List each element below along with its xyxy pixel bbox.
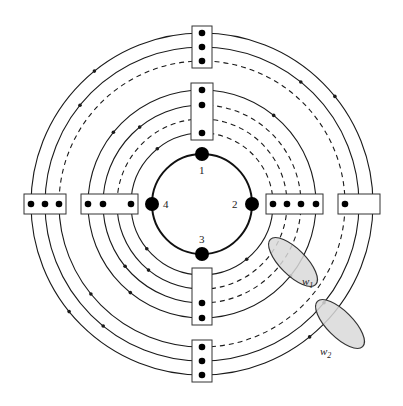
arrow-marker — [147, 268, 151, 272]
arrow-marker — [138, 125, 142, 129]
port-dot — [284, 201, 291, 208]
port-dot — [199, 315, 206, 322]
port-dot — [199, 87, 206, 94]
arrow-marker — [123, 265, 127, 269]
arrow-marker — [245, 257, 249, 261]
arrow-marker — [93, 69, 97, 73]
ellipse-label-w2: w2 — [320, 345, 331, 360]
arrow-marker — [101, 324, 105, 328]
port-dot — [42, 201, 49, 208]
ring-arc — [117, 119, 202, 204]
ring-diagram: 1 2 3 4 w1 w2 — [0, 0, 403, 406]
ring-arc — [88, 204, 202, 318]
w-ellipses — [261, 230, 372, 356]
ring-arc — [31, 33, 202, 204]
ring-arc — [202, 33, 373, 204]
arrow-marker — [333, 95, 337, 99]
port-dot — [199, 358, 206, 365]
port-dot — [342, 201, 349, 208]
ring-arc — [31, 204, 202, 375]
port-dot — [199, 58, 206, 65]
ring-arc — [202, 47, 359, 204]
node-2 — [245, 197, 259, 211]
arrow-marker — [78, 103, 82, 107]
node-label-1: 1 — [199, 164, 205, 176]
port-dot — [270, 201, 277, 208]
arrow-marker — [129, 291, 133, 295]
port-dot — [298, 201, 305, 208]
port-dot — [199, 300, 206, 307]
diagram-canvas: 1 2 3 4 w1 w2 — [0, 0, 403, 406]
node-1 — [195, 147, 209, 161]
ring-arc — [59, 61, 202, 204]
ring-arc — [59, 204, 202, 347]
port-dot — [199, 102, 206, 109]
arrow-marker — [112, 131, 116, 135]
node-label-3: 3 — [199, 233, 205, 245]
node-label-2: 2 — [232, 198, 238, 210]
arrow-marker — [67, 310, 71, 314]
ring-arc — [117, 204, 202, 289]
port-dot — [28, 201, 35, 208]
node-3 — [195, 247, 209, 261]
port-dot — [100, 201, 107, 208]
port-dot — [199, 372, 206, 379]
port-dot — [199, 30, 206, 37]
arrow-marker — [299, 80, 303, 84]
arrow-marker — [308, 335, 312, 339]
ring-arc — [45, 47, 202, 204]
w-ellipse — [261, 230, 325, 294]
ring-arc — [202, 204, 373, 375]
port-dot — [56, 201, 63, 208]
port-dot — [199, 344, 206, 351]
ring-arc — [45, 204, 202, 361]
ring-arc — [88, 90, 202, 204]
port-dot — [313, 201, 320, 208]
arrow-marker — [89, 292, 93, 296]
port-dot — [85, 201, 92, 208]
port-dot — [199, 130, 206, 137]
port-dot — [128, 201, 135, 208]
ring-arc — [202, 61, 345, 204]
port-dot — [199, 44, 206, 51]
ring-arc — [202, 90, 316, 204]
w-ellipse — [308, 292, 372, 356]
arrow-marker — [156, 147, 160, 151]
node-4 — [145, 197, 159, 211]
arrow-marker — [272, 114, 276, 118]
ring-arc — [202, 119, 287, 204]
arrow-marker — [145, 247, 149, 251]
node-label-4: 4 — [163, 198, 169, 210]
